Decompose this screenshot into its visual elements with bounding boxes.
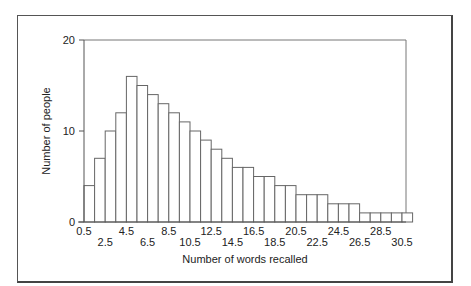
y-axis-label: Number of people <box>40 87 52 174</box>
histogram-bar <box>370 213 381 222</box>
x-tick-label: 18.5 <box>264 236 285 248</box>
histogram-bar <box>307 195 318 222</box>
histogram-bar <box>95 158 106 222</box>
histogram-bar <box>338 204 349 222</box>
histogram-bar <box>179 122 190 222</box>
x-tick-label: 20.5 <box>285 225 306 237</box>
histogram-bar <box>402 213 413 222</box>
histogram-bar <box>84 186 95 222</box>
y-tick-label: 0 <box>69 216 75 228</box>
histogram-bar <box>328 204 339 222</box>
histogram-bar <box>391 213 402 222</box>
histogram-bar <box>201 140 212 222</box>
y-tick-label: 10 <box>63 125 75 137</box>
x-tick-label: 12.5 <box>200 225 221 237</box>
x-tick-label: 6.5 <box>140 236 155 248</box>
histogram-bar <box>126 76 137 222</box>
histogram-bar <box>232 167 243 222</box>
x-tick-label: 10.5 <box>179 236 200 248</box>
x-tick-label: 16.5 <box>243 225 264 237</box>
x-tick-label: 24.5 <box>328 225 349 237</box>
y-tick-label: 20 <box>63 34 75 46</box>
histogram-bar <box>285 186 296 222</box>
x-tick-label: 30.5 <box>391 236 412 248</box>
histogram-bar <box>254 177 265 223</box>
histogram-bar <box>317 195 328 222</box>
histogram-bar <box>264 177 275 223</box>
histogram-bar <box>190 131 201 222</box>
x-tick-label: 14.5 <box>222 236 243 248</box>
histogram-bar <box>349 204 360 222</box>
histogram-bar <box>275 186 286 222</box>
histogram-bar <box>148 95 159 222</box>
x-tick-label: 22.5 <box>306 236 327 248</box>
histogram-bar <box>381 213 392 222</box>
histogram-bar <box>360 213 371 222</box>
x-tick-label: 4.5 <box>119 225 134 237</box>
histogram-chart: 010200.54.58.512.516.520.524.528.52.56.5… <box>0 0 471 286</box>
histogram-bar <box>158 104 169 222</box>
x-tick-label: 8.5 <box>161 225 176 237</box>
histogram-bar <box>137 86 148 223</box>
histogram-bar <box>296 195 307 222</box>
x-tick-label: 26.5 <box>349 236 370 248</box>
histogram-bar <box>105 131 116 222</box>
histogram-bar <box>211 149 222 222</box>
histogram-bar <box>169 113 180 222</box>
x-tick-label: 2.5 <box>98 236 113 248</box>
histogram-bar <box>116 113 127 222</box>
histogram-bar <box>222 158 233 222</box>
x-tick-label: 0.5 <box>76 225 91 237</box>
histogram-bar <box>243 167 254 222</box>
x-tick-label: 28.5 <box>370 225 391 237</box>
x-axis-label: Number of words recalled <box>182 253 307 265</box>
